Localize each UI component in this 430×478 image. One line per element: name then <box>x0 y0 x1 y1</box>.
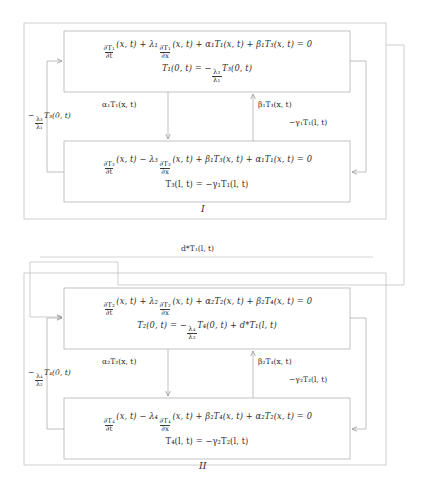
block-II-top-equation-box: ∂T₂∂t(x, t) + λ₂∂T₂∂x(x, t) + α₂T₂(x, t)… <box>64 288 350 349</box>
block-II-bottom-equation-box: ∂T₄∂t(x, t) − λ₄∂T₄∂x(x, t) + β₂T₄(x, t)… <box>64 398 350 459</box>
block-II-top-boundary: T₂(0, t) = −λ₄λ₂T₄(0, t) + d*T₁(l, t) <box>137 320 277 341</box>
block-I-bottom-equation-box: ∂T₃∂t(x, t) − λ₃∂T₃∂x(x, t) + β₁T₃(x, t)… <box>64 141 350 202</box>
block-I-top-equation-box: ∂T₁∂t(x, t) + λ₁∂T₁∂x(x, t) + α₁T₁(x, t)… <box>64 31 350 92</box>
block-I-label: I <box>201 204 205 214</box>
block-I-bottom-boundary: T₃(l, t) = −γ₁T₁(l, t) <box>166 179 249 189</box>
block-II-bottom-pde: ∂T₄∂t(x, t) − λ₄∂T₄∂x(x, t) + β₂T₄(x, t)… <box>102 411 312 432</box>
diagram-canvas: ∂T₁∂t(x, t) + λ₁∂T₁∂x(x, t) + α₁T₁(x, t)… <box>0 0 430 478</box>
block-II-right-signal: −γ₂T₂(l, t) <box>289 376 327 384</box>
block-II-left-signal: −λ₄λ₂T₄(0, t) <box>28 369 71 387</box>
block-I-inner-left-signal: α₁T₁(x, t) <box>102 101 136 109</box>
interconnect-signal-label: d*T₁(l, t) <box>181 245 214 253</box>
block-II-top-pde: ∂T₂∂t(x, t) + λ₂∂T₂∂x(x, t) + α₂T₂(x, t)… <box>102 296 312 317</box>
block-I-right-signal: −γ₁T₁(l, t) <box>289 119 327 127</box>
block-II-inner-right-signal: β₂T₄(x, t) <box>258 358 292 366</box>
block-II-inner-left-signal: α₂T₂(x, t) <box>102 358 136 366</box>
block-II-label: II <box>199 461 207 471</box>
block-I-inner-right-signal: β₁T₃(x, t) <box>258 101 292 109</box>
block-I-top-boundary: T₁(0, t) = −λ₃λ₁T₃(0, t) <box>162 63 252 84</box>
block-I-bottom-pde: ∂T₃∂t(x, t) − λ₃∂T₃∂x(x, t) + β₁T₃(x, t)… <box>102 154 312 175</box>
block-II-bottom-boundary: T₄(l, t) = −γ₂T₂(l, t) <box>166 436 249 446</box>
block-I-top-pde: ∂T₁∂t(x, t) + λ₁∂T₁∂x(x, t) + α₁T₁(x, t)… <box>102 39 312 60</box>
block-I-left-signal: −λ₃λ₁T₃(0, t) <box>28 112 71 130</box>
